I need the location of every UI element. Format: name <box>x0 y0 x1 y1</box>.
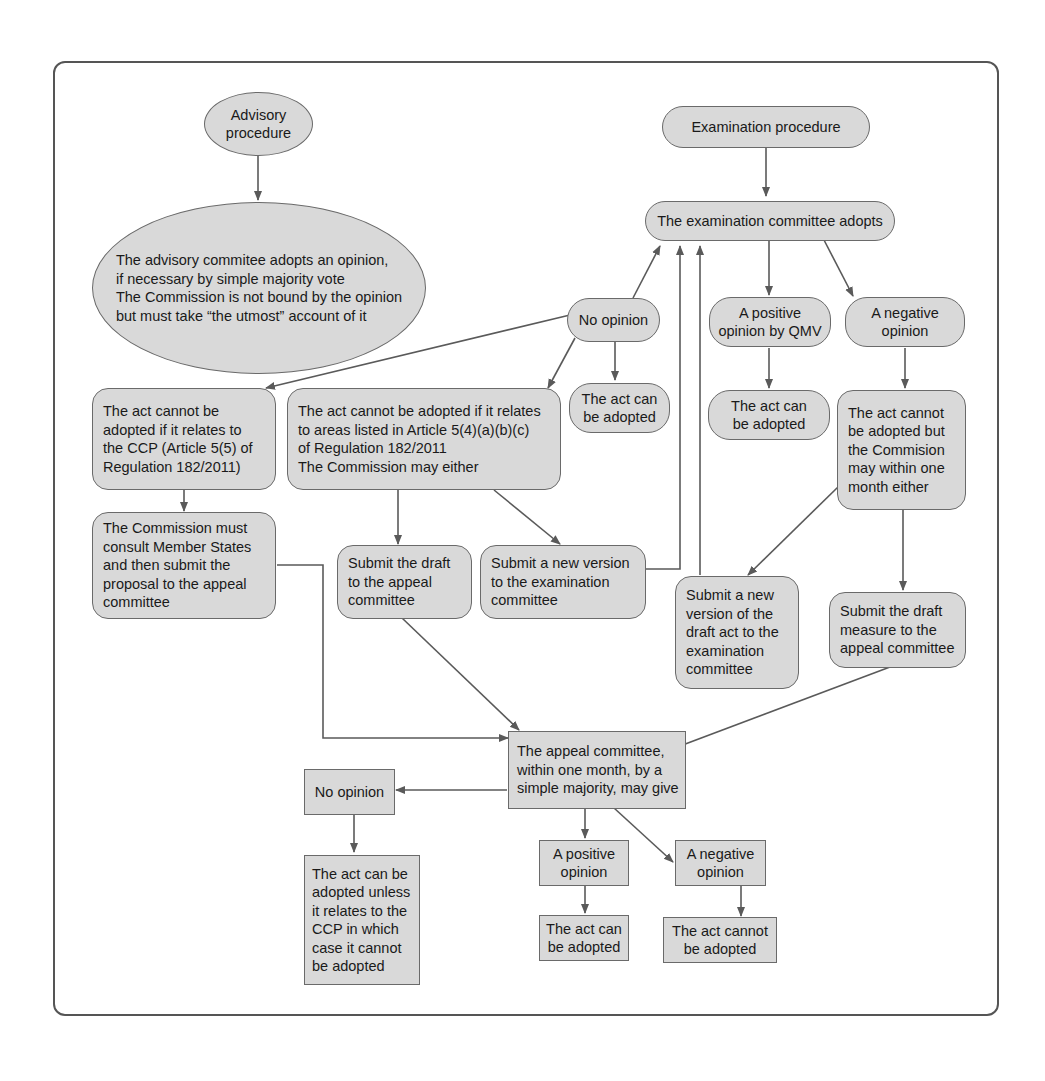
submit-draft-measure-node: Submit the draft measure to the appeal c… <box>829 592 966 668</box>
exam-negative-node: A negative opinion <box>845 297 965 347</box>
consult-member-states-label: The Commission must consult Member State… <box>103 519 251 612</box>
submit-draft-appeal-node: Submit the draft to the appeal committee <box>337 545 472 619</box>
appeal-committee-label: The appeal committee, within one month, … <box>517 742 679 798</box>
ccp-cannot-label: The act cannot be adopted if it relates … <box>103 402 253 476</box>
examination-procedure-node: Examination procedure <box>662 106 870 148</box>
exam-negative-label: A negative opinion <box>871 304 939 341</box>
advisory-procedure-node: Advisory procedure <box>204 92 313 156</box>
appeal-negative-label: A negative opinion <box>687 845 755 882</box>
appeal-positive-node: A positive opinion <box>539 840 629 886</box>
areas-cannot-label: The act cannot be adopted if it relates … <box>298 402 541 476</box>
areas-cannot-node: The act cannot be adopted if it relates … <box>287 388 561 490</box>
submit-new-version-draft-label: Submit a new version of the draft act to… <box>686 586 779 679</box>
examination-committee-label: The examination committee adopts <box>657 212 883 231</box>
submit-draft-appeal-label: Submit the draft to the appeal committee <box>348 554 450 610</box>
appeal-no-opinion-result-label: The act can be adopted unless it relates… <box>312 865 410 976</box>
appeal-no-opinion-label: No opinion <box>315 783 384 802</box>
exam-no-opinion-result-node: The act can be adopted <box>569 383 670 433</box>
submit-new-version-draft-node: Submit a new version of the draft act to… <box>675 576 799 689</box>
examination-committee-node: The examination committee adopts <box>645 201 895 241</box>
appeal-no-opinion-result-node: The act can be adopted unless it relates… <box>304 855 420 985</box>
appeal-negative-node: A negative opinion <box>675 840 766 886</box>
consult-member-states-node: The Commission must consult Member State… <box>92 512 276 619</box>
exam-positive-label: A positive opinion by QMV <box>718 304 821 341</box>
exam-positive-result-label: The act can be adopted <box>731 397 807 434</box>
submit-draft-measure-label: Submit the draft measure to the appeal c… <box>840 602 954 658</box>
ccp-cannot-node: The act cannot be adopted if it relates … <box>92 388 276 490</box>
appeal-negative-result-node: The act cannot be adopted <box>663 917 777 963</box>
appeal-positive-label: A positive opinion <box>553 845 615 882</box>
appeal-positive-result-node: The act can be adopted <box>539 915 629 961</box>
appeal-no-opinion-node: No opinion <box>304 769 395 815</box>
exam-no-opinion-result-label: The act can be adopted <box>582 390 658 427</box>
appeal-committee-node: The appeal committee, within one month, … <box>508 731 686 809</box>
examination-procedure-label: Examination procedure <box>691 118 840 137</box>
negative-cannot-label: The act cannot be adopted but the Commis… <box>848 404 945 497</box>
submit-new-version-node: Submit a new version to the examination … <box>480 545 646 619</box>
appeal-negative-result-label: The act cannot be adopted <box>672 922 768 959</box>
exam-positive-node: A positive opinion by QMV <box>709 297 831 347</box>
submit-new-version-label: Submit a new version to the examination … <box>491 554 630 610</box>
exam-no-opinion-node: No opinion <box>567 298 660 342</box>
advisory-committee-label: The advisory commitee adopts an opinion,… <box>116 251 402 325</box>
exam-no-opinion-label: No opinion <box>579 311 648 330</box>
negative-cannot-node: The act cannot be adopted but the Commis… <box>837 390 966 510</box>
advisory-committee-node: The advisory commitee adopts an opinion,… <box>92 202 426 374</box>
exam-positive-result-node: The act can be adopted <box>708 390 830 440</box>
advisory-procedure-label: Advisory procedure <box>226 106 291 143</box>
appeal-positive-result-label: The act can be adopted <box>546 920 622 957</box>
